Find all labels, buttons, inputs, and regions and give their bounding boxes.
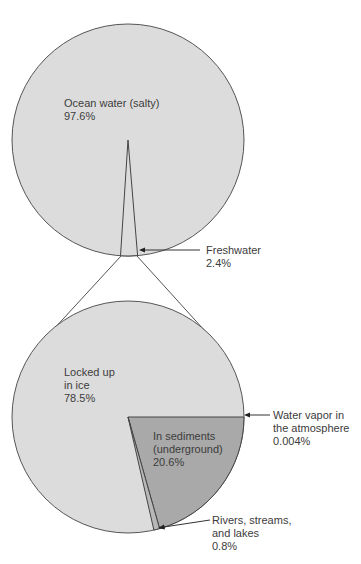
sediments-label-line1: In sediments [153,430,223,443]
rivers-label-value: 0.8% [212,540,291,553]
sediments-label-line2: (underground) [153,443,223,456]
ocean-label: Ocean water (salty) 97.6% [64,97,159,123]
freshwater-label-name: Freshwater [206,244,261,257]
vapor-label-line2: the atmosphere [273,422,349,435]
ice-label-line1: Locked up [64,366,115,379]
ice-label: Locked up in ice 78.5% [64,366,115,405]
sediments-label: In sediments (underground) 20.6% [153,430,223,469]
vapor-label-value: 0.004% [273,435,349,448]
rivers-label: Rivers, streams, and lakes 0.8% [212,514,291,553]
rivers-label-line2: and lakes [212,527,291,540]
bottom-pie [12,301,244,533]
ocean-label-value: 97.6% [64,110,159,123]
vapor-label: Water vapor in the atmosphere 0.004% [273,409,349,448]
top-pie [12,24,244,256]
sediments-label-value: 20.6% [153,456,223,469]
arrowhead-icon [244,413,250,418]
vapor-label-line1: Water vapor in [273,409,349,422]
ice-label-line2: in ice [64,379,115,392]
ice-label-value: 78.5% [64,392,115,405]
water-distribution-chart [0,0,361,564]
rivers-label-line1: Rivers, streams, [212,514,291,527]
freshwater-label-value: 2.4% [206,257,261,270]
ocean-label-name: Ocean water (salty) [64,97,159,110]
freshwater-label: Freshwater 2.4% [206,244,261,270]
